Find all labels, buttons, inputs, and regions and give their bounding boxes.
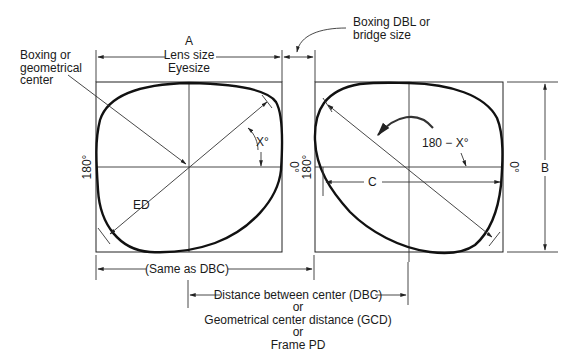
- label-left-180: 180°: [80, 154, 94, 179]
- label-x-angle: X°: [256, 135, 269, 149]
- rotation-arc-arrow: [378, 117, 433, 135]
- ed-tick-bottom: [98, 228, 110, 244]
- label-lens-size: Lens size: [164, 48, 215, 62]
- label-boxing-center-3: center: [20, 73, 53, 87]
- ed-line: [110, 102, 267, 234]
- right-diag-tick-bottom: [489, 232, 500, 246]
- label-b: B: [541, 161, 549, 175]
- label-or-1: or: [293, 300, 304, 314]
- label-frame-pd: Frame PD: [271, 338, 326, 352]
- label-right-0: 0°: [507, 161, 521, 173]
- label-dbl-1: Boxing DBL or: [353, 15, 430, 29]
- dbl-dimension: [284, 28, 346, 82]
- label-right-180: 180°: [300, 154, 314, 179]
- label-eyesize: Eyesize: [168, 61, 210, 75]
- label-left-0: 0°: [287, 161, 301, 173]
- dbl-leader: [297, 28, 346, 52]
- right-diagonal-line: [328, 105, 492, 237]
- frame-measurement-diagram: A Lens size Eyesize Boxing or geometrica…: [0, 0, 578, 363]
- label-ed: ED: [133, 198, 150, 212]
- boxing-center-leader: [68, 75, 186, 164]
- label-a: A: [185, 34, 193, 48]
- right-lens-group: [315, 82, 503, 262]
- label-dbl-2: bridge size: [353, 28, 411, 42]
- label-c: C: [368, 175, 377, 189]
- label-or-2: or: [293, 325, 304, 339]
- label-boxing-center-1: Boxing or: [20, 48, 71, 62]
- rotation-angle-pointer: [461, 153, 466, 166]
- left-lens-group: [68, 75, 282, 252]
- label-rotation-angle: 180 − X°: [422, 136, 469, 150]
- label-same-as-dbc: (Same as DBC): [145, 262, 229, 276]
